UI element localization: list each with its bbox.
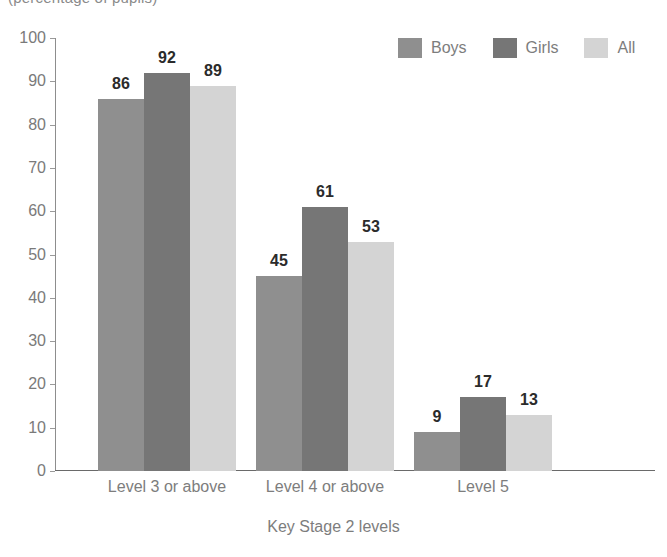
bar-all-1[interactable] bbox=[190, 86, 236, 471]
y-axis-tick-label: 30 bbox=[28, 332, 46, 350]
x-axis-title: Key Stage 2 levels bbox=[0, 518, 667, 536]
bar-group: 91713 bbox=[414, 38, 552, 471]
y-axis-tick-label: 70 bbox=[28, 159, 46, 177]
y-axis-tick bbox=[50, 471, 55, 472]
bar-value-label: 53 bbox=[348, 218, 394, 236]
y-axis-tick-label: 80 bbox=[28, 116, 46, 134]
bar-value-label: 92 bbox=[144, 49, 190, 67]
bar-value-label: 61 bbox=[302, 183, 348, 201]
bar-girls-3[interactable] bbox=[460, 397, 506, 471]
bar-value-label: 86 bbox=[98, 75, 144, 93]
y-axis-tick-label: 20 bbox=[28, 375, 46, 393]
y-axis-tick-label: 0 bbox=[37, 462, 46, 480]
plot-area: 0102030405060708090100 86928945615391713 bbox=[55, 38, 655, 471]
bar-value-label: 89 bbox=[190, 62, 236, 80]
y-axis-tick-label: 50 bbox=[28, 246, 46, 264]
y-axis-tick-label: 60 bbox=[28, 202, 46, 220]
y-axis-tick-label: 10 bbox=[28, 419, 46, 437]
bar-value-label: 9 bbox=[414, 408, 460, 426]
bar-value-label: 13 bbox=[506, 391, 552, 409]
bar-all-2[interactable] bbox=[348, 242, 394, 471]
bar-boys-2[interactable] bbox=[256, 276, 302, 471]
bar-group: 869289 bbox=[98, 38, 236, 471]
y-axis-tick-label: 90 bbox=[28, 72, 46, 90]
bar-girls-1[interactable] bbox=[144, 73, 190, 471]
x-axis-category-label: Level 3 or above bbox=[77, 478, 257, 496]
chart-caption: (percentage of pupils) bbox=[8, 0, 158, 11]
bar-value-label: 45 bbox=[256, 252, 302, 270]
bar-series-container: 86928945615391713 bbox=[55, 38, 655, 471]
x-axis-category-label: Level 4 or above bbox=[235, 478, 415, 496]
bar-all-3[interactable] bbox=[506, 415, 552, 471]
y-axis-tick-label: 40 bbox=[28, 289, 46, 307]
bar-value-label: 17 bbox=[460, 373, 506, 391]
bar-girls-2[interactable] bbox=[302, 207, 348, 471]
x-axis-category-label: Level 5 bbox=[393, 478, 573, 496]
bar-boys-1[interactable] bbox=[98, 99, 144, 471]
bar-group: 456153 bbox=[256, 38, 394, 471]
bar-boys-3[interactable] bbox=[414, 432, 460, 471]
y-axis-tick-label: 100 bbox=[19, 29, 46, 47]
